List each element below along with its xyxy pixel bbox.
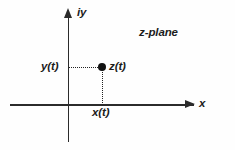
real-projection-line (102, 67, 103, 105)
data-point-z (98, 63, 106, 71)
point-label-x-component: x(t) (92, 106, 110, 118)
y-axis-label: iy (77, 6, 86, 18)
x-axis-label: x (199, 97, 205, 109)
plane-title-label: z-plane (139, 26, 178, 38)
z-plane-diagram: iy x z-plane z(t) y(t) x(t) (0, 0, 235, 150)
point-label-z: z(t) (109, 60, 126, 72)
y-axis-arrow-icon (64, 8, 72, 18)
x-axis-arrow-icon (185, 100, 195, 108)
point-label-y-component: y(t) (41, 60, 59, 72)
y-axis-line (68, 17, 70, 142)
